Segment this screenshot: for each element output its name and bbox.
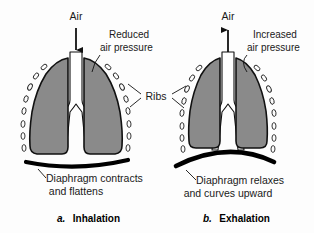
caption-marker-inhalation: a. xyxy=(57,213,65,224)
lung-right-inhalation xyxy=(84,58,122,154)
pressure-label-exhalation-line1: Increased xyxy=(253,29,297,40)
caption-inhalation: a. Inhalation xyxy=(57,208,120,225)
panel-exhalation: Air Increased air pressure Diaphragm rel… xyxy=(176,10,300,225)
lung-left-inhalation xyxy=(30,58,68,154)
diaphragm-leader-inhalation xyxy=(38,169,46,178)
lung-right-exhalation xyxy=(236,58,267,148)
caption-text-exhalation: Exhalation xyxy=(219,213,270,224)
panel-inhalation: Air Reduced air pressure Diaphragm contr… xyxy=(21,10,153,225)
air-label-inhalation: Air xyxy=(70,10,83,22)
pressure-label-inhalation-line1: Reduced xyxy=(109,29,149,40)
lung-left-exhalation xyxy=(189,58,220,148)
diaphragm-label-exhalation-line1: Diaphragm relaxes xyxy=(196,174,284,186)
ribs-callout: Ribs xyxy=(128,84,186,108)
diaphragm-leader-exhalation xyxy=(186,170,196,180)
ribs-label: Ribs xyxy=(145,90,166,102)
air-label-exhalation: Air xyxy=(222,10,235,22)
diaphragm-label-inhalation-line1: Diaphragm contracts xyxy=(46,172,143,184)
breathing-diagram: Air Reduced air pressure Diaphragm contr… xyxy=(0,0,314,233)
ribs-leader-left xyxy=(128,84,141,107)
diaphragm-inhalation xyxy=(26,160,128,167)
diaphragm-exhalation xyxy=(176,152,274,166)
pressure-label-inhalation-line2: air pressure xyxy=(100,42,153,53)
caption-exhalation: b. Exhalation xyxy=(203,208,270,225)
caption-text-inhalation: Inhalation xyxy=(73,213,120,224)
caption-marker-exhalation: b. xyxy=(203,213,212,224)
diaphragm-label-exhalation-line2: and curves upward xyxy=(184,187,273,199)
diaphragm-label-inhalation-line2: and flattens xyxy=(49,185,103,197)
pressure-label-exhalation-line2: air pressure xyxy=(247,42,300,53)
